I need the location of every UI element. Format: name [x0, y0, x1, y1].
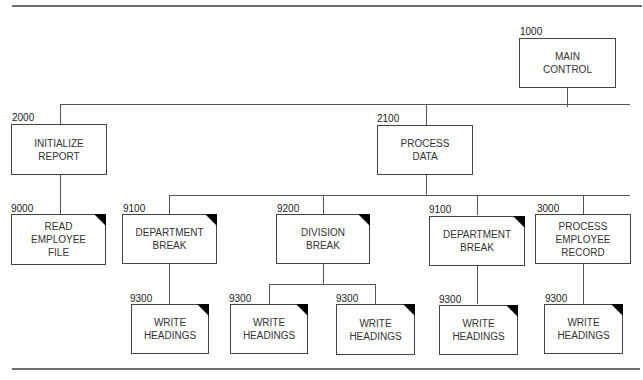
module-number: 3000 [537, 204, 559, 214]
module-number: 9100 [429, 205, 451, 215]
module-process-data: PROCESS DATA [377, 125, 473, 175]
module-label: DEPARTMENT BREAK [136, 226, 204, 252]
connector [477, 195, 478, 215]
predefined-corner-icon [403, 304, 415, 316]
module-label: PROCESS DATA [401, 137, 450, 163]
connector [60, 175, 61, 214]
module-label: DIVISION BREAK [301, 226, 345, 252]
connector [169, 195, 170, 214]
module-label: INITIALIZE REPORT [34, 137, 83, 163]
predefined-corner-icon [197, 304, 209, 316]
module-number: 9300 [229, 294, 251, 304]
module-main-control: MAIN CONTROL [519, 38, 616, 88]
module-label: MAIN CONTROL [543, 50, 592, 76]
predefined-corner-icon [506, 305, 518, 317]
connector [583, 195, 584, 214]
module-number: 1000 [520, 27, 542, 37]
module-number: 9200 [277, 204, 299, 214]
predefined-corner-icon [611, 304, 623, 316]
module-number: 9100 [123, 204, 145, 214]
connector [169, 264, 170, 304]
module-number: 9000 [11, 204, 33, 214]
connector [375, 284, 376, 304]
module-label: READ EMPLOYEE FILE [31, 220, 86, 259]
connector [426, 104, 427, 125]
connector [269, 284, 270, 304]
connector [323, 264, 324, 284]
connector [426, 175, 427, 195]
top-rule [12, 5, 642, 7]
connector [60, 104, 61, 124]
connector [269, 284, 375, 285]
module-initialize-report: INITIALIZE REPORT [11, 124, 107, 175]
module-department-break: DEPARTMENT BREAK [429, 216, 525, 266]
module-label: WRITE HEADINGS [349, 317, 401, 343]
bottom-rule [12, 368, 640, 370]
module-process-employee-record: PROCESS EMPLOYEE RECORD [535, 214, 631, 264]
connector [323, 195, 324, 214]
predefined-corner-icon [296, 304, 308, 316]
module-number: 2100 [377, 114, 399, 124]
module-label: WRITE HEADINGS [452, 317, 504, 343]
connector [583, 264, 584, 304]
predefined-corner-icon [513, 216, 525, 228]
module-number: 2000 [12, 113, 34, 123]
module-label: WRITE HEADINGS [144, 316, 196, 342]
module-division-break: DIVISION BREAK [276, 214, 370, 264]
module-label: DEPARTMENT BREAK [443, 228, 511, 254]
module-write-headings: WRITE HEADINGS [336, 304, 415, 355]
module-number: 9300 [336, 294, 358, 304]
module-number: 9300 [439, 295, 461, 305]
module-number: 9300 [130, 294, 152, 304]
module-label: WRITE HEADINGS [243, 316, 295, 342]
module-label: WRITE HEADINGS [557, 316, 609, 342]
module-write-headings: WRITE HEADINGS [131, 304, 209, 354]
module-read-employee-file: READ EMPLOYEE FILE [11, 214, 106, 265]
module-label: PROCESS EMPLOYEE RECORD [555, 220, 610, 259]
predefined-corner-icon [358, 214, 370, 226]
module-number: 9300 [545, 294, 567, 304]
predefined-corner-icon [205, 214, 217, 226]
connector [60, 104, 630, 105]
module-write-headings: WRITE HEADINGS [439, 305, 518, 355]
connector [169, 195, 630, 196]
module-department-break: DEPARTMENT BREAK [122, 214, 217, 264]
predefined-corner-icon [94, 214, 106, 226]
module-write-headings: WRITE HEADINGS [230, 304, 308, 354]
connector [477, 266, 478, 304]
module-write-headings: WRITE HEADINGS [544, 304, 623, 354]
